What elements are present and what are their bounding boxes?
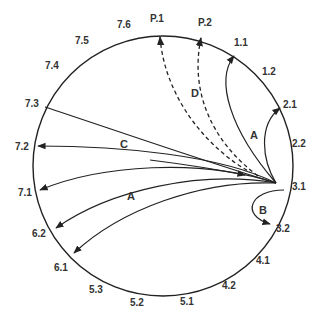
node-label-5.2: 5.2 [130,297,144,308]
arc-label-a-top: A [250,129,258,141]
node-label-4.2: 4.2 [222,280,236,291]
edge-3.1-to-6.2 [56,179,276,228]
node-label-5.3: 5.3 [89,284,103,295]
node-label-3.2: 3.2 [276,223,290,234]
node-label-7.2: 7.2 [15,141,29,152]
edge-3.1-to-7.3 [45,107,276,183]
arc-label-a-bottom: A [127,190,135,202]
node-label-2.1: 2.1 [283,99,297,110]
node-label-7.4: 7.4 [45,60,59,71]
node-label-1.2: 1.2 [262,66,276,77]
edge-3.1-to-P.2 [198,38,258,176]
node-label-2.2: 2.2 [292,138,306,149]
edge-3.1-to-P.1 [160,37,250,172]
outer-circle [33,36,293,296]
arc-label-b: B [259,204,267,216]
node-label-4.1: 4.1 [256,255,270,266]
node-label-7.1: 7.1 [18,187,32,198]
node-label-5.1: 5.1 [180,296,194,307]
arc-label-d: D [191,87,199,99]
node-label-1.1: 1.1 [234,37,248,48]
edge-3.1-to-3.2 [252,190,284,224]
edge-3.1-to-6.1 [74,183,276,253]
node-label-7.3: 7.3 [25,98,39,109]
arc-label-c: C [120,138,128,150]
node-labels: 7.6 P.1 P.2 1.1 1.2 2.1 2.2 3.1 3.2 4.1 … [15,13,306,308]
node-label-6.2: 6.2 [32,228,46,239]
node-label-P.2: P.2 [198,17,212,28]
circular-flow-diagram: 7.6 P.1 P.2 1.1 1.2 2.1 2.2 3.1 3.2 4.1 … [0,0,317,320]
node-label-P.1: P.1 [150,13,164,24]
node-label-7.5: 7.5 [75,35,89,46]
node-label-6.1: 6.1 [54,262,68,273]
node-label-3.1: 3.1 [292,181,306,192]
edge-3.1-to-7.2 [38,146,276,183]
node-label-7.6: 7.6 [117,19,131,30]
